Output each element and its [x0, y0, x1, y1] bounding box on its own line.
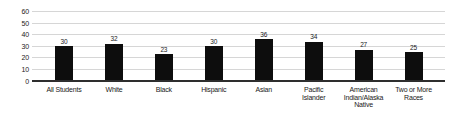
- category-label: Hispanic: [186, 86, 242, 94]
- y-axis-tick-label: 20: [5, 54, 29, 61]
- bar-chart: 010203040506030All Students32White23Blac…: [0, 0, 459, 119]
- bar: [355, 50, 373, 80]
- bar: [155, 54, 173, 80]
- gridline: [32, 46, 445, 47]
- y-axis-tick-label: 30: [5, 43, 29, 50]
- bar-value-label: 25: [399, 44, 429, 51]
- y-axis-tick-label: 60: [5, 8, 29, 15]
- x-axis-line: [32, 80, 445, 82]
- bar-value-label: 36: [249, 31, 279, 38]
- gridline: [32, 11, 445, 12]
- bar-value-label: 23: [149, 46, 179, 53]
- gridline: [32, 23, 445, 24]
- bar-value-label: 30: [199, 38, 229, 45]
- bar-value-label: 32: [99, 35, 129, 42]
- bar-value-label: 30: [49, 38, 79, 45]
- category-label: White: [86, 86, 142, 94]
- bar: [255, 39, 273, 80]
- gridline: [32, 34, 445, 35]
- bar: [55, 46, 73, 80]
- category-label: American Indian/Alaska Native: [336, 86, 392, 109]
- bar-value-label: 27: [349, 41, 379, 48]
- gridline: [32, 69, 445, 70]
- bar: [305, 42, 323, 80]
- bar: [205, 46, 223, 80]
- y-axis-tick-label: 0: [5, 78, 29, 85]
- bar-value-label: 34: [299, 33, 329, 40]
- category-label: All Students: [36, 86, 92, 94]
- y-axis-tick-label: 40: [5, 31, 29, 38]
- category-label: Pacific Islander: [286, 86, 342, 101]
- category-label: Asian: [236, 86, 292, 94]
- bar: [405, 52, 423, 80]
- y-axis-tick-label: 50: [5, 20, 29, 27]
- gridline: [32, 57, 445, 58]
- category-label: Two or More Races: [386, 86, 442, 101]
- y-axis-tick-label: 10: [5, 66, 29, 73]
- category-label: Black: [136, 86, 192, 94]
- bar: [105, 44, 123, 80]
